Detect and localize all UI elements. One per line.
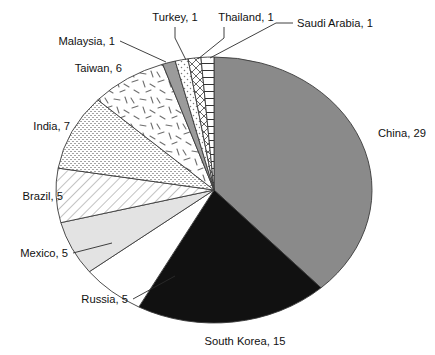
pie-label-brazil: Brazil, 5 (23, 190, 63, 202)
pie-label-china: China, 29 (378, 127, 426, 139)
pie-label-russia: Russia, 5 (81, 293, 128, 305)
leader-line-saudi-arabia (210, 23, 293, 58)
leader-line-turkey (175, 27, 186, 60)
pie-label-mexico: Mexico, 5 (20, 247, 68, 259)
pie-label-turkey: Turkey, 1 (152, 11, 197, 23)
pie-label-india: India, 7 (33, 120, 70, 132)
leader-line-malaysia (120, 41, 166, 62)
pie-label-saudi-arabia: Saudi Arabia, 1 (297, 17, 373, 29)
pie-label-thailand: Thailand, 1 (218, 11, 273, 23)
pie-chart-container: China, 29South Korea, 15Russia, 5Mexico,… (0, 0, 435, 355)
pie-label-taiwan: Taiwan, 6 (75, 62, 122, 74)
leader-line-thailand (198, 27, 224, 59)
pie-chart-svg: China, 29South Korea, 15Russia, 5Mexico,… (0, 0, 435, 355)
pie-label-south-korea: South Korea, 15 (205, 335, 286, 347)
pie-slices-group (56, 57, 372, 323)
pie-label-malaysia: Malaysia, 1 (58, 35, 115, 47)
